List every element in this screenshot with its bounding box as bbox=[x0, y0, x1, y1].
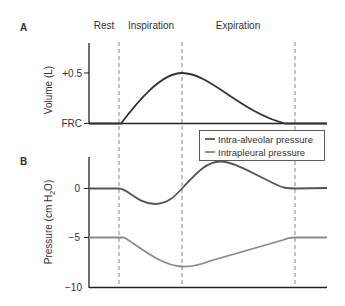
panel-a: +0.5 FRC Volume (L) bbox=[43, 43, 327, 129]
legend: Intra-alveolar pressure Intrapleural pre… bbox=[200, 131, 325, 161]
panel-a-ylabel: Volume (L) bbox=[43, 66, 54, 114]
tick-label-plus-0-5: +0.5 bbox=[62, 68, 82, 79]
tick-label-minus-10: −10 bbox=[65, 282, 82, 293]
phase-rest-label: Rest bbox=[94, 20, 115, 31]
ylabel-main: Pressure (cm H bbox=[43, 195, 54, 264]
intrapleural-pressure-curve bbox=[89, 238, 327, 267]
legend-label-intrapleural: Intrapleural pressure bbox=[218, 147, 305, 158]
ylabel-end: O) bbox=[43, 180, 54, 191]
panel-b: 0 −5 −10 Pressure (cm H2O) bbox=[43, 157, 327, 293]
panel-a-label: A bbox=[20, 22, 27, 33]
panel-b-ylabel: Pressure (cm H2O) bbox=[43, 180, 56, 264]
respiratory-pressure-volume-figure: A B Rest Inspiration Expiration +0.5 FRC… bbox=[0, 0, 345, 306]
phase-expiration-label: Expiration bbox=[216, 20, 260, 31]
volume-curve bbox=[89, 73, 327, 124]
legend-label-intra-alveolar: Intra-alveolar pressure bbox=[218, 134, 313, 145]
intra-alveolar-pressure-curve bbox=[89, 161, 327, 204]
panel-b-label: B bbox=[20, 156, 27, 167]
phase-inspiration-label: Inspiration bbox=[128, 20, 174, 31]
tick-label-minus-5: −5 bbox=[69, 232, 81, 243]
tick-label-0: 0 bbox=[74, 183, 80, 194]
tick-label-frc: FRC bbox=[61, 118, 82, 129]
